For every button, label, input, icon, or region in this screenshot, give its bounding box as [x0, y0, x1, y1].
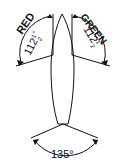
arrow-icon: [92, 139, 98, 145]
stern-label: 135°: [51, 148, 74, 160]
stern-sector-line-right: [63, 124, 98, 138]
nav-lights-diagram: RED 11212° GREEN 11212° 135°: [0, 0, 125, 166]
stern-sector-line-left: [31, 124, 63, 138]
diagram-svg: RED 11212° GREEN 11212° 135°: [0, 0, 125, 166]
vessel-hull: [51, 14, 74, 124]
port-sector-line-bottom: [16, 55, 53, 66]
